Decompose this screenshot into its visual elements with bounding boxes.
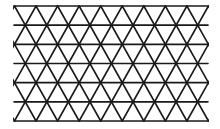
diagonal-line-down-left xyxy=(208,6,220,121)
lattice-lines xyxy=(0,6,220,121)
diagonal-line-down-right xyxy=(208,6,220,121)
diagonal-line-down-right xyxy=(0,6,15,121)
triangle-lattice xyxy=(0,0,220,129)
diagonal-line-down-left xyxy=(0,6,15,121)
